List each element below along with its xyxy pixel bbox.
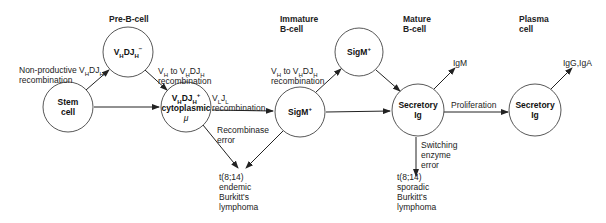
vhdjh-negative-label: VHDJH− xyxy=(103,47,153,57)
mature-secretory-line1: Secretory xyxy=(390,100,446,110)
mature-secretory-label: Secretory Ig xyxy=(390,100,446,120)
label-vh-to-vhdjh-b: VH to VHDJH recombination xyxy=(271,66,324,86)
mature-secretory-line2: Ig xyxy=(390,110,446,120)
stage-immature-line1: Immature xyxy=(280,14,318,24)
stage-pre-b-cell: Pre-B-cell xyxy=(109,14,149,24)
label-vh-to-vhdjh-a: VH to VHDJH recombination xyxy=(158,66,211,86)
mu-text: μ xyxy=(158,113,214,123)
sigm-lower-label: SigM+ xyxy=(275,107,325,117)
stage-mature-b-cell: Mature B-cell xyxy=(403,14,431,34)
label-switching-enzyme-error: Switching enzyme error xyxy=(421,140,457,170)
sigm-upper-label: SigM+ xyxy=(334,47,384,57)
plasma-secretory-label: Secretory Ig xyxy=(507,100,563,120)
cytoplasmic-text: cytoplasmic xyxy=(158,103,214,113)
label-nonproductive: Non-productive VHDJH recombination xyxy=(19,65,104,85)
stage-plasma-cell: Plasma cell xyxy=(519,14,549,34)
plasma-secretory-line1: Secretory xyxy=(507,100,563,110)
stage-immature-b-cell: Immature B-cell xyxy=(280,14,318,34)
vhdjh-positive-label: VHDJH+ cytoplasmic μ xyxy=(158,93,214,123)
label-recombinase-error: Recombinase error xyxy=(217,125,269,145)
label-vljl: VLJL recombination xyxy=(212,93,265,113)
stage-mature-line1: Mature xyxy=(403,14,431,24)
stem-line1: Stem xyxy=(43,97,93,107)
outcome-endemic-burkitt: t(8;14) endemic Burkitt's lymphoma xyxy=(219,172,258,212)
label-proliferation: Proliferation xyxy=(451,100,496,110)
stage-plasma-line2: cell xyxy=(519,24,549,34)
stage-mature-line2: B-cell xyxy=(403,24,431,34)
outcome-sporadic-burkitt: t(8;14) sporadic Burkitt's lymphoma xyxy=(397,172,436,212)
stage-immature-line2: B-cell xyxy=(280,24,318,34)
stage-plasma-line1: Plasma xyxy=(519,14,549,24)
label-igg-iga: IgG,IgA xyxy=(563,58,592,68)
label-igm: IgM xyxy=(453,58,467,68)
plasma-secretory-line2: Ig xyxy=(507,110,563,120)
arrow-mature-to-igm xyxy=(434,68,455,89)
stem-line2: cell xyxy=(43,107,93,117)
arrow-sigm-lower-to-mature xyxy=(326,111,390,112)
arrow-sigm-upper-to-mature xyxy=(376,70,400,91)
stem-cell-label: Stem cell xyxy=(43,97,93,117)
arrow-plasma-to-iggiga xyxy=(551,68,572,89)
